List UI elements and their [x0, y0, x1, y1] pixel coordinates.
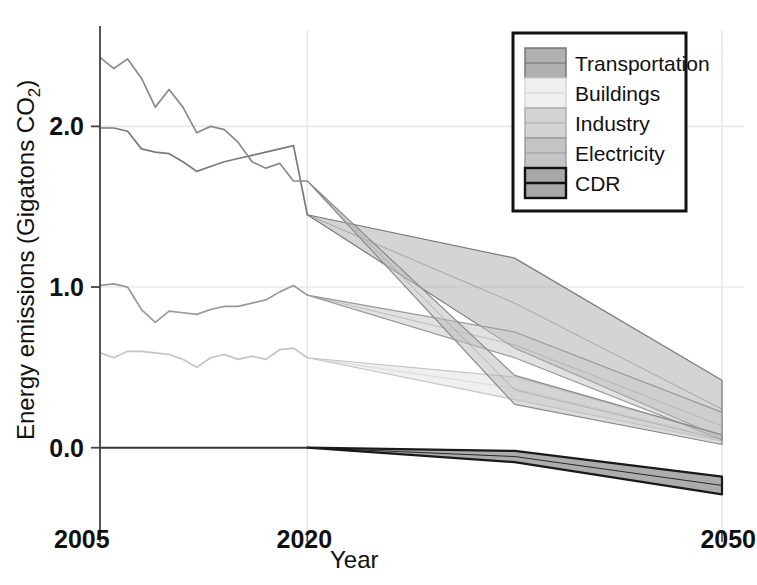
legend-label-cdr[interactable]: CDR [575, 172, 621, 195]
x-tick-label: 2005 [54, 525, 110, 553]
legend-label-industry[interactable]: Industry [575, 112, 650, 135]
legend-label-transportation[interactable]: Transportation [575, 52, 710, 75]
series-bands [307, 181, 722, 494]
x-axis-title: Year [330, 546, 379, 573]
y-axis-title-text: Energy emissions (Gigatons CO2) [12, 80, 44, 440]
series-band-cdr [307, 448, 722, 495]
series-history-industry [100, 284, 307, 323]
series-history-electricity [100, 57, 307, 181]
chart-canvas: 0.01.02.0200520202050 Energy emissions (… [0, 0, 757, 585]
x-tick-label: 2050 [700, 525, 756, 553]
legend-label-buildings[interactable]: Buildings [575, 82, 660, 105]
legend[interactable]: TransportationBuildingsIndustryElectrici… [513, 33, 710, 211]
legend-label-electricity[interactable]: Electricity [575, 142, 665, 165]
y-tick-label: 2.0 [49, 112, 84, 140]
y-axis-title: Energy emissions (Gigatons CO2) [12, 80, 44, 440]
y-tick-label: 0.0 [49, 434, 84, 462]
series-history-buildings [100, 348, 307, 367]
y-tick-label: 1.0 [49, 273, 84, 301]
series-history-transportation [100, 128, 307, 215]
x-tick-label: 2020 [277, 525, 333, 553]
chart-figure: 0.01.02.0200520202050 Energy emissions (… [0, 0, 757, 585]
series-history-lines [100, 57, 307, 447]
